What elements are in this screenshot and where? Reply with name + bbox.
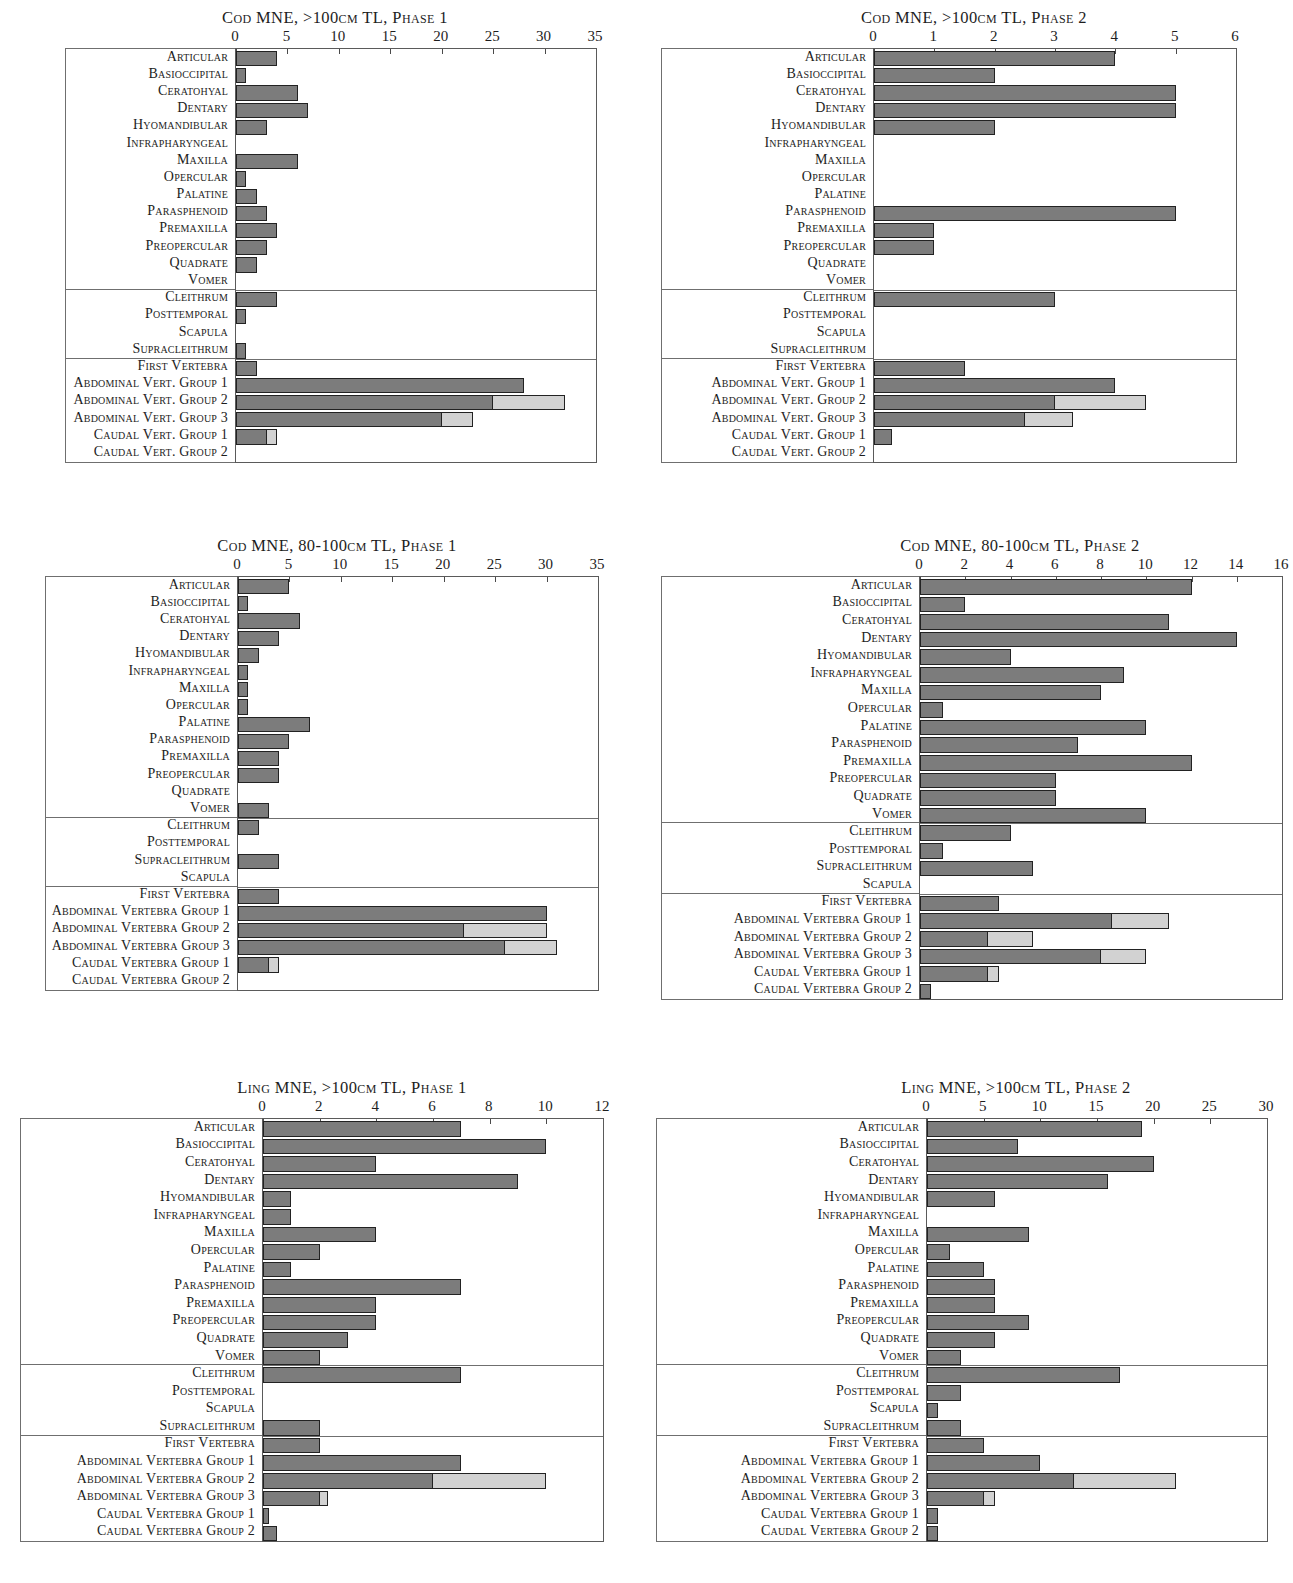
category-label: Parasphenoid: [45, 731, 233, 748]
category-label: Quadrate: [65, 254, 231, 271]
bar-row: [874, 360, 1236, 377]
category-label: Posttemporal: [661, 840, 915, 858]
x-tick-label: 0: [231, 28, 239, 45]
bar: [920, 720, 1146, 736]
bar-segment-identified: [874, 120, 995, 135]
bar-row: [874, 50, 1236, 67]
bar-row: [263, 1261, 603, 1279]
x-tick-label: 4: [1006, 556, 1014, 573]
bar: [263, 1227, 376, 1243]
x-tick-label: 0: [233, 556, 241, 573]
category-label: Supracleithrum: [65, 340, 231, 357]
bar-row: [238, 750, 598, 767]
bar-segment-identified: [927, 1385, 961, 1401]
bar-segment-identified: [238, 613, 300, 628]
bar-row: [236, 394, 596, 411]
bar: [238, 734, 289, 749]
bar-row: [263, 1525, 603, 1543]
bar-segment-identified: [920, 913, 1112, 929]
bar-segment-identified: [263, 1332, 348, 1348]
category-label: Quadrate: [45, 782, 233, 799]
bar-segment-identified: [874, 68, 995, 83]
bar-segment-identified: [927, 1491, 984, 1507]
x-tick-label: 12: [1183, 556, 1198, 573]
bar: [238, 957, 279, 972]
bar-row: [874, 153, 1236, 170]
bar-row: [920, 736, 1282, 754]
bar: [263, 1121, 461, 1137]
bar-row: [874, 274, 1236, 291]
category-label: Dentary: [45, 628, 233, 645]
bar: [236, 361, 257, 376]
bar: [920, 949, 1146, 965]
category-label: Abdominal Vert. Group 2: [661, 392, 869, 409]
bar-row: [236, 308, 596, 325]
bar-row: [927, 1490, 1267, 1508]
bar-segment-identified: [927, 1297, 995, 1313]
x-tick-label: 35: [590, 556, 605, 573]
bar-segment-identified: [236, 343, 246, 358]
bar-segment-identified: [236, 206, 267, 221]
bar-segment-identified: [238, 906, 547, 921]
bar: [238, 665, 248, 680]
bar-row: [927, 1454, 1267, 1472]
category-label: Scapula: [45, 868, 233, 885]
bar-segment-identified: [236, 171, 246, 186]
category-label: Palatine: [661, 717, 915, 735]
bar-row: [874, 188, 1236, 205]
category-label: Infrapharyngeal: [656, 1206, 922, 1224]
bar-row: [238, 905, 598, 922]
bar-row: [238, 578, 598, 595]
category-label: Abdominal Vert. Group 1: [65, 375, 231, 392]
bar: [238, 717, 310, 732]
bar: [238, 579, 289, 594]
bar-segment-identified: [920, 773, 1056, 789]
bar: [927, 1438, 984, 1454]
bar-segment-identified: [927, 1174, 1108, 1190]
chart-panel-cod-gt100-phase1: Cod MNE, >100cm TL, Phase 10510152025303…: [0, 0, 636, 528]
category-label: Premaxilla: [45, 748, 233, 765]
x-tick-label: 5: [285, 556, 293, 573]
x-tick-label: 20: [435, 556, 450, 573]
bar-segment-unidentified: [464, 923, 546, 938]
category-label: Scapula: [20, 1400, 258, 1418]
x-tick-label: 25: [485, 28, 500, 45]
x-tick-label: 2: [990, 28, 998, 45]
bar-row: [236, 205, 596, 222]
category-label: Opercular: [656, 1241, 922, 1259]
category-label: Posttemporal: [45, 834, 233, 851]
bar-segment-identified: [920, 790, 1056, 806]
bar-row: [927, 1138, 1267, 1156]
category-labels: ArticularBasioccipitalCeratohyalDentaryH…: [20, 1118, 262, 1542]
category-label: Abdominal Vert. Group 3: [661, 409, 869, 426]
bar-segment-identified: [238, 768, 279, 783]
bar-row: [874, 377, 1236, 394]
bar-row: [920, 930, 1282, 948]
bar-row: [920, 648, 1282, 666]
category-label: Dentary: [65, 100, 231, 117]
bar-row: [263, 1366, 603, 1384]
bar-row: [236, 136, 596, 153]
bar-segment-unidentified: [1112, 913, 1169, 929]
x-tick-label: 25: [1202, 1098, 1217, 1115]
bar-row: [238, 647, 598, 664]
bar-row: [263, 1472, 603, 1490]
bar-segment-identified: [920, 755, 1192, 771]
category-label: Ceratohyal: [661, 611, 915, 629]
category-label: Infrapharyngeal: [661, 664, 915, 682]
bar-row: [927, 1278, 1267, 1296]
bar-segment-identified: [927, 1438, 984, 1454]
bar-row: [927, 1296, 1267, 1314]
bar-row: [920, 860, 1282, 878]
bar-row: [927, 1402, 1267, 1420]
bar-row: [874, 342, 1236, 359]
bar: [920, 984, 931, 1000]
bar-row: [236, 102, 596, 119]
category-label: Maxilla: [65, 151, 231, 168]
bar: [927, 1350, 961, 1366]
category-label: Parasphenoid: [661, 203, 869, 220]
bar-row: [238, 922, 598, 939]
x-axis-tick-labels: 0123456: [873, 28, 1235, 48]
bar: [920, 843, 943, 859]
